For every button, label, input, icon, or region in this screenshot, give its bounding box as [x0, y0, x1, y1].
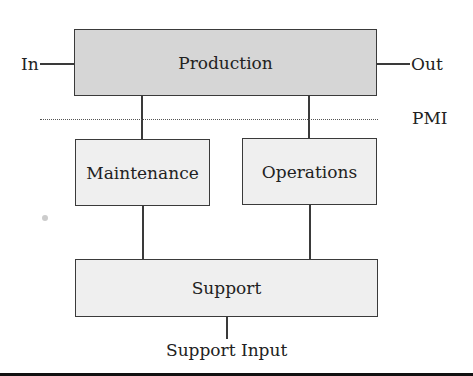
support-label: Support: [192, 278, 262, 298]
support-input-label: Support Input: [166, 342, 287, 359]
input-connector: [40, 63, 74, 65]
operations-support-connector: [309, 205, 311, 260]
pmi-boundary-line: [40, 119, 378, 120]
input-label: In: [21, 56, 39, 73]
operations-box: Operations: [242, 138, 377, 205]
maintenance-support-connector: [142, 206, 144, 260]
production-box: Production: [74, 29, 377, 96]
production-label: Production: [178, 53, 273, 73]
scan-artifact-dot: [42, 215, 48, 221]
output-connector: [377, 63, 410, 65]
pmi-label: PMI: [412, 110, 448, 127]
maintenance-label: Maintenance: [86, 163, 198, 183]
production-operations-connector: [308, 96, 310, 138]
support-box: Support: [75, 259, 378, 317]
output-label: Out: [411, 56, 443, 73]
maintenance-box: Maintenance: [75, 139, 210, 206]
production-maintenance-connector: [141, 96, 143, 139]
operations-label: Operations: [262, 162, 357, 182]
support-input-connector: [226, 317, 228, 339]
